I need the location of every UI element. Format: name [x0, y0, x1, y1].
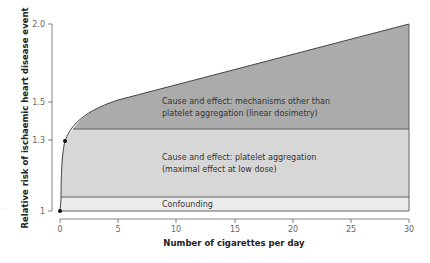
y-ticks: [48, 24, 52, 211]
y-axis-title: Relative risk of ischaemic heart disease…: [20, 7, 30, 228]
x-axis-title: Number of cigarettes per day: [163, 238, 305, 248]
x-tick-label-30: 30: [404, 225, 414, 234]
x-tick-label-20: 20: [288, 225, 298, 234]
data-point-origin: [58, 209, 62, 213]
x-ticks: [60, 219, 409, 223]
y-tick-label-2-0: 2.0: [32, 20, 45, 29]
region-confounding: [61, 197, 409, 211]
stray-mark: .: [4, 203, 6, 210]
region-mechanisms-label-line2: platelet aggregation (linear dosimetry): [162, 109, 318, 118]
x-tick-label-10: 10: [171, 225, 181, 234]
x-tick-label-15: 15: [230, 225, 240, 234]
y-tick-label-1-5: 1.5: [32, 98, 45, 107]
y-tick-label-1: 1: [40, 207, 45, 216]
relative-risk-chart: 2.0 1.5 1.3 1 Relative risk of ischaemic…: [0, 0, 430, 263]
x-tick-label-25: 25: [346, 225, 356, 234]
region-mechanisms-label-line1: Cause and effect: mechanisms other than: [162, 97, 330, 106]
region-platelet-label-line2: (maximal effect at low dose): [162, 165, 277, 174]
region-platelet: [61, 129, 409, 197]
x-tick-label-5: 5: [115, 225, 120, 234]
region-platelet-label-line1: Cause and effect: platelet aggregation: [162, 153, 316, 162]
region-confounding-label: Confounding: [162, 200, 213, 209]
y-tick-label-1-3: 1.3: [32, 136, 45, 145]
x-tick-label-0: 0: [57, 225, 62, 234]
data-point-low-dose: [63, 139, 67, 143]
